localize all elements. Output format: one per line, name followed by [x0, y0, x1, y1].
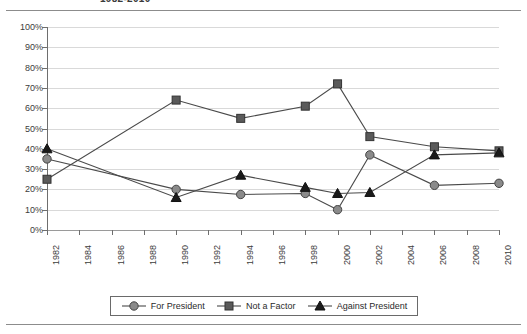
y-axis-tick-label: 60% — [25, 103, 43, 113]
legend-item-label: Against President — [337, 301, 408, 311]
x-axis-tick — [467, 230, 468, 235]
y-axis-tick-label: 90% — [25, 42, 43, 52]
x-axis-tick — [402, 230, 403, 235]
plot-area — [47, 27, 499, 230]
x-axis-tick — [208, 230, 209, 235]
x-axis-tick-label: 2004 — [406, 245, 416, 265]
data-point-circle — [237, 190, 245, 198]
x-axis-tick-label: 2006 — [438, 245, 448, 265]
x-axis-tick — [176, 230, 177, 235]
y-axis-tick-label: 100% — [20, 22, 43, 32]
x-axis-tick-label: 1982 — [51, 245, 61, 265]
x-axis-tick — [370, 230, 371, 235]
legend-item-label: For President — [151, 301, 205, 311]
data-point-circle — [495, 179, 503, 187]
data-point-square — [334, 80, 342, 88]
x-axis-tick-label: 2008 — [471, 245, 481, 265]
chart-legend: For PresidentNot a FactorAgainst Preside… — [110, 296, 418, 316]
data-point-square — [43, 175, 51, 183]
data-point-circle — [366, 151, 374, 159]
data-point-square — [172, 96, 180, 104]
x-axis-tick — [273, 230, 274, 235]
y-axis-tick-label: 70% — [25, 83, 43, 93]
data-point-triangle — [236, 170, 246, 179]
x-axis-tick — [79, 230, 80, 235]
y-axis-tick-label: 30% — [25, 164, 43, 174]
y-axis-labels: 100%90%80%70%60%50%40%30%20%10%0% — [0, 27, 43, 230]
x-axis-tick-label: 2002 — [374, 245, 384, 265]
x-axis-tick-label: 1986 — [116, 245, 126, 265]
data-point-square — [237, 114, 245, 122]
data-point-triangle — [365, 187, 375, 196]
y-axis-tick-label: 20% — [25, 184, 43, 194]
x-axis-tick-label: 2010 — [503, 245, 513, 265]
x-axis-tick-label: 1988 — [148, 245, 158, 265]
data-point-square — [366, 133, 374, 141]
y-axis-tick-label: 80% — [25, 63, 43, 73]
data-point-circle — [333, 206, 341, 214]
x-axis-tick — [305, 230, 306, 235]
y-axis-tick-label: 40% — [25, 144, 43, 154]
legend-item[interactable]: For President — [121, 300, 205, 312]
x-axis-tick-label: 1998 — [309, 245, 319, 265]
x-axis-tick — [47, 230, 48, 235]
top-divider — [6, 10, 521, 11]
legend-item[interactable]: Not a Factor — [216, 300, 296, 312]
y-axis-tick-label: 10% — [25, 205, 43, 215]
y-axis-tick-label: 50% — [25, 124, 43, 134]
legend-marker-square-icon — [216, 300, 242, 312]
data-point-circle — [43, 155, 51, 163]
x-axis-tick — [144, 230, 145, 235]
series-line — [47, 84, 499, 179]
x-axis-tick-label: 2000 — [342, 245, 352, 265]
data-point-circle — [129, 302, 137, 310]
data-point-square — [225, 302, 233, 310]
x-axis-tick-label: 1994 — [245, 245, 255, 265]
data-point-circle — [430, 181, 438, 189]
legend-item-label: Not a Factor — [246, 301, 296, 311]
data-point-square — [301, 102, 309, 110]
x-axis-tick — [338, 230, 339, 235]
x-axis-tick — [434, 230, 435, 235]
x-axis-tick-label: 1990 — [180, 245, 190, 265]
legend-marker-triangle-icon — [307, 300, 333, 312]
x-axis-tick-label: 1996 — [277, 245, 287, 265]
x-axis-tick-label: 1992 — [212, 245, 222, 265]
chart-title-clip: 1982-2010 — [0, 0, 527, 9]
x-axis-tick — [241, 230, 242, 235]
chart-figure: 1982-2010 100%90%80%70%60%50%40%30%20%10… — [0, 0, 527, 334]
x-axis-tick-label: 1984 — [83, 245, 93, 265]
x-axis-tick — [112, 230, 113, 235]
data-point-triangle — [171, 193, 181, 202]
page-title: 1982-2010 — [100, 0, 151, 4]
bottom-divider — [6, 324, 521, 325]
data-series — [47, 27, 499, 230]
x-axis-tick — [499, 230, 500, 235]
legend-item[interactable]: Against President — [307, 300, 408, 312]
legend-marker-circle-icon — [121, 300, 147, 312]
